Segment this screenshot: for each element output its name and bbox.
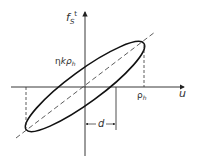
x-axis-label: u bbox=[179, 87, 186, 100]
hysteresis-diagram: fSt ηkρh ρh u d bbox=[0, 0, 199, 163]
intercept-label: ηkρh bbox=[55, 56, 76, 67]
dashed-diagonal bbox=[16, 32, 155, 138]
offset-label: d bbox=[98, 118, 105, 129]
peak-label: ρh bbox=[137, 90, 147, 101]
y-axis-label: fSt bbox=[66, 10, 77, 26]
